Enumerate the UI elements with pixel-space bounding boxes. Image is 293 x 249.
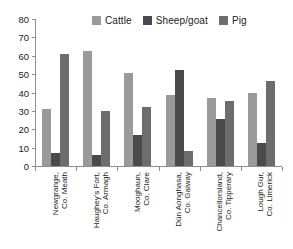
- x-axis-label-line: Haughey's Fort,: [92, 172, 101, 228]
- plot-area: 01020304050607080: [35, 19, 282, 167]
- x-axis-label-line: Newgrange,: [51, 172, 60, 215]
- bar-chart: Cattle Sheep/goat Pig 01020304050607080 …: [0, 0, 293, 249]
- x-axis-label-line: Co. Limerick: [265, 172, 274, 216]
- x-tick-mark: [35, 167, 36, 171]
- x-tick-mark: [117, 167, 118, 171]
- bar-pig: [225, 101, 234, 166]
- x-axis-label-line: Mooghaun,: [133, 172, 142, 212]
- bar-cattle: [124, 73, 133, 166]
- y-tick-mark: [32, 56, 35, 57]
- x-axis-label-line: Co. Clare: [142, 172, 151, 206]
- y-tick-mark: [32, 148, 35, 149]
- y-tick-label: 10: [1, 144, 29, 153]
- x-axis-label-line: Chancellorsland,: [215, 172, 224, 232]
- x-axis-label-line: Co. Tipperary: [224, 172, 233, 220]
- x-tick-mark: [200, 167, 201, 171]
- bar-pig: [266, 81, 275, 166]
- x-axis-labels: Newgrange,Co. MeathHaughey's Fort,Co. Ar…: [35, 172, 282, 248]
- y-tick-label: 70: [1, 33, 29, 42]
- y-tick-mark: [32, 74, 35, 75]
- x-axis-label-line: Dún Aonghasa,: [174, 172, 183, 227]
- x-axis-label-line: Co. Galway: [183, 172, 192, 213]
- bar-cattle: [166, 95, 175, 166]
- bar-sheep-goat: [257, 143, 266, 166]
- bar-cattle: [248, 93, 257, 166]
- bar-group: [166, 19, 193, 166]
- bar-cattle: [42, 109, 51, 166]
- x-axis-label-line: Co. Armagh: [101, 172, 110, 214]
- y-tick-label: 0: [1, 162, 29, 171]
- bar-group: [124, 19, 151, 166]
- bar-pig: [101, 111, 110, 166]
- x-axis-label-line: Co. Meath: [60, 172, 69, 209]
- y-tick-label: 20: [1, 125, 29, 134]
- y-tick-label: 30: [1, 107, 29, 116]
- bar-pig: [142, 107, 151, 166]
- bar-sheep-goat: [175, 70, 184, 166]
- bar-cattle: [83, 51, 92, 166]
- x-tick-mark: [241, 167, 242, 171]
- y-tick-label: 80: [1, 15, 29, 24]
- y-tick-mark: [32, 129, 35, 130]
- bar-sheep-goat: [133, 135, 142, 166]
- y-tick-label: 50: [1, 70, 29, 79]
- x-tick-mark: [282, 167, 283, 171]
- bar-group: [83, 19, 110, 166]
- bar-pig: [60, 54, 69, 166]
- bar-group: [248, 19, 275, 166]
- y-tick-mark: [32, 111, 35, 112]
- bar-sheep-goat: [92, 155, 101, 166]
- y-tick-label: 60: [1, 52, 29, 61]
- y-tick-mark: [32, 93, 35, 94]
- y-tick-label: 40: [1, 89, 29, 98]
- y-axis-line: [35, 19, 36, 167]
- bar-group: [42, 19, 69, 166]
- x-tick-mark: [76, 167, 77, 171]
- x-axis-label: Lough Gur,Co. Limerick: [256, 172, 293, 246]
- bar-sheep-goat: [51, 153, 60, 166]
- x-tick-mark: [159, 167, 160, 171]
- bar-sheep-goat: [216, 119, 225, 166]
- bar-group: [207, 19, 234, 166]
- y-tick-mark: [32, 37, 35, 38]
- y-tick-mark: [32, 19, 35, 20]
- bar-pig: [184, 151, 193, 166]
- bar-cattle: [207, 98, 216, 166]
